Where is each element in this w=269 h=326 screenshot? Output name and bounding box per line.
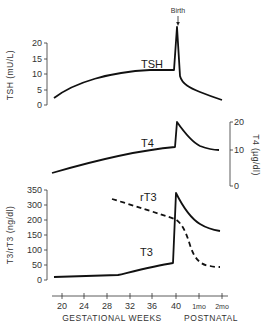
x-axis <box>52 293 228 299</box>
birth-annotation: Birth <box>171 7 186 14</box>
t4-tick-20: 20 <box>234 117 244 127</box>
x-tick-24: 24 <box>79 301 89 311</box>
t4-series-label: T4 <box>141 137 154 149</box>
rt3-line <box>112 199 220 267</box>
t4-tick-10: 10 <box>234 145 244 155</box>
tsh-axis <box>44 43 47 105</box>
t3-line <box>54 193 220 277</box>
x-tick-2mo: 2mo <box>215 303 229 310</box>
rt3-series-label: rT3 <box>140 191 157 203</box>
tsh-line <box>54 27 222 100</box>
x-tick-20: 20 <box>57 301 67 311</box>
t4-line <box>52 122 219 173</box>
tsh-series-label: TSH <box>141 58 163 70</box>
t3-axis <box>44 190 47 280</box>
t3-tick-300: 300 <box>27 200 42 210</box>
x-axis-title-postnatal: POSTNATAL <box>184 313 238 323</box>
tsh-tick-10: 10 <box>32 69 42 79</box>
t3-tick-200: 200 <box>27 215 42 225</box>
x-axis-title-gestational: GESTATIONAL WEEKS <box>62 313 162 323</box>
tsh-tick-0: 0 <box>37 100 42 110</box>
tsh-tick-5: 5 <box>37 85 42 95</box>
t3-tick-50: 50 <box>32 260 42 270</box>
x-tick-40: 40 <box>171 301 181 311</box>
thyroid-hormone-chart: Birth 20 15 10 5 0 TSH (mU/L) TSH 20 10 … <box>0 0 269 326</box>
x-tick-28: 28 <box>102 301 112 311</box>
tsh-tick-15: 15 <box>32 54 42 64</box>
x-tick-1mo: 1mo <box>192 303 206 310</box>
t3-tick-100: 100 <box>27 245 42 255</box>
x-tick-32: 32 <box>125 301 135 311</box>
t4-axis-title: T4 (µg/dl) <box>251 134 261 176</box>
t3-tick-350: 350 <box>27 185 42 195</box>
t3-axis-title: T3/rT3 (ng/dl) <box>5 206 15 265</box>
x-tick-36: 36 <box>147 301 157 311</box>
t3-tick-0: 0 <box>37 275 42 285</box>
t4-axis <box>230 122 233 186</box>
t3-tick-150: 150 <box>27 230 42 240</box>
tsh-axis-title: TSH (mU/L) <box>5 50 15 100</box>
birth-arrow-icon <box>176 16 180 26</box>
t3-series-label: T3 <box>140 246 153 258</box>
t4-tick-0: 0 <box>234 181 239 191</box>
tsh-tick-20: 20 <box>32 38 42 48</box>
